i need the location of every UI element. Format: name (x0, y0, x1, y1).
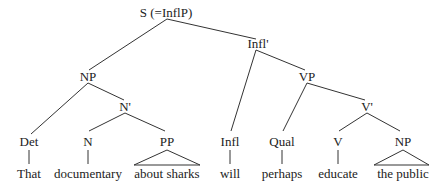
node-v: V (333, 134, 343, 149)
node-infl: Infl (221, 134, 240, 149)
word-perhaps: perhaps (262, 166, 302, 181)
edge-vp-vbar (307, 83, 365, 100)
triangle-np-object (374, 150, 429, 165)
word-the-public: the public (377, 166, 429, 181)
edge-nbar-n (89, 113, 125, 131)
node-pp: PP (160, 134, 174, 149)
tree-words: That documentary about sharks will perha… (17, 166, 429, 181)
edge-vp-qual (283, 83, 307, 131)
edge-vbar-v (339, 113, 367, 131)
node-n: N (83, 134, 93, 149)
word-documentary: documentary (54, 166, 122, 181)
tree-node-labels: S (=InflP) Infl' NP VP N' V' Det N PP In… (20, 5, 412, 149)
edge-np-nbar (88, 83, 124, 100)
node-det: Det (20, 134, 39, 149)
node-infl-bar: Infl' (247, 36, 268, 51)
edge-nbar-pp (125, 113, 165, 131)
word-about-sharks: about sharks (134, 166, 199, 181)
edge-np-det (31, 83, 88, 134)
edge-vbar-np (367, 113, 400, 131)
syntax-tree-diagram: S (=InflP) Infl' NP VP N' V' Det N PP In… (0, 0, 444, 188)
word-that: That (17, 166, 41, 181)
edge-s-np (89, 19, 167, 70)
node-v-bar: V' (361, 99, 373, 114)
triangle-pp (134, 150, 200, 165)
node-vp: VP (299, 69, 316, 84)
node-n-bar: N' (119, 99, 131, 114)
node-np-object: NP (395, 134, 412, 149)
word-educate: educate (318, 166, 358, 181)
node-qual: Qual (269, 134, 295, 149)
node-s: S (=InflP) (140, 5, 192, 20)
edge-inflbar-infl (231, 50, 256, 131)
edge-s-inflbar (167, 19, 256, 39)
edge-inflbar-vp (256, 50, 305, 70)
node-np-subject: NP (80, 69, 97, 84)
word-will: will (220, 166, 241, 181)
